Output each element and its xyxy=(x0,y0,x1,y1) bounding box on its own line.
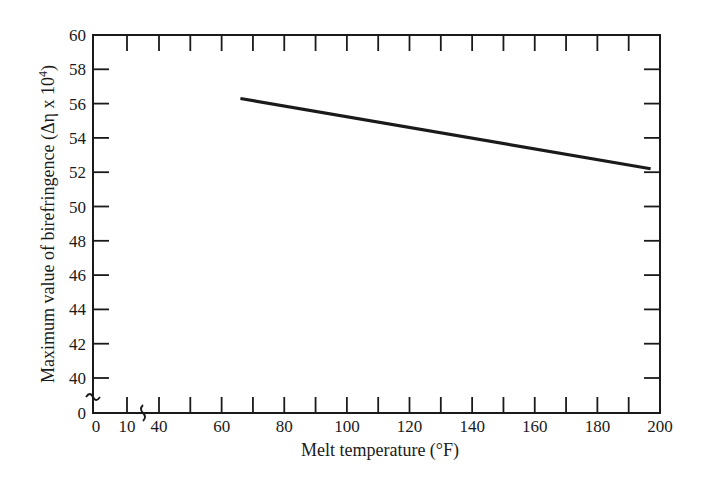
y-tick-label: 42 xyxy=(69,335,86,354)
x-tick-label: 140 xyxy=(459,417,485,436)
x-tick-label: 60 xyxy=(213,417,230,436)
x-tick-label: 200 xyxy=(647,417,673,436)
x-tick-label: 100 xyxy=(334,417,360,436)
x-tick-label: 160 xyxy=(522,417,548,436)
y-tick-label: 52 xyxy=(69,163,86,182)
y-tick-label: 60 xyxy=(69,26,86,45)
y-tick-label: 44 xyxy=(69,300,87,319)
x-tick-labels: 010406080100120140160180200 xyxy=(92,417,673,436)
tick-marks xyxy=(93,35,660,413)
y-tick-label: 46 xyxy=(69,266,86,285)
x-tick-label: 10 xyxy=(119,417,136,436)
plot-frame xyxy=(93,35,660,413)
y-axis-title: Maximum value of birefringence (Δη x 104… xyxy=(36,65,59,383)
y-tick-label: 40 xyxy=(69,369,86,388)
y-tick-label: 48 xyxy=(69,232,86,251)
chart: 04042444648505254565860 0104060801001201… xyxy=(0,0,707,479)
y-tick-label: 0 xyxy=(78,404,87,423)
x-axis-title: Melt temperature (°F) xyxy=(301,440,459,461)
x-tick-label: 40 xyxy=(151,417,168,436)
data-line xyxy=(240,98,650,168)
y-tick-label: 58 xyxy=(69,60,86,79)
y-tick-label: 56 xyxy=(69,95,86,114)
y-axis-title-main: Maximum value of birefringence (Δη x 10 xyxy=(38,77,59,383)
y-tick-label: 50 xyxy=(69,198,86,217)
x-tick-label: 0 xyxy=(92,417,101,436)
y-tick-label: 54 xyxy=(69,129,87,148)
x-tick-label: 80 xyxy=(276,417,293,436)
x-tick-label: 120 xyxy=(397,417,423,436)
y-tick-labels: 04042444648505254565860 xyxy=(69,26,87,423)
x-tick-label: 180 xyxy=(585,417,611,436)
y-axis-title-end: ) xyxy=(38,65,59,71)
